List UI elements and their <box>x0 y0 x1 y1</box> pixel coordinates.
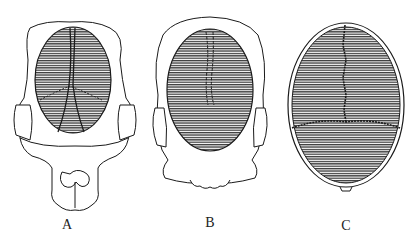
panel-label-c: C <box>336 218 356 234</box>
panel-b-drawing <box>153 17 267 188</box>
panel-c-drawing <box>288 23 404 191</box>
panel-label-a: A <box>57 217 77 233</box>
panel-label-b: B <box>200 215 220 231</box>
panel-a-drawing <box>14 22 136 211</box>
skull-diagram <box>0 0 413 240</box>
